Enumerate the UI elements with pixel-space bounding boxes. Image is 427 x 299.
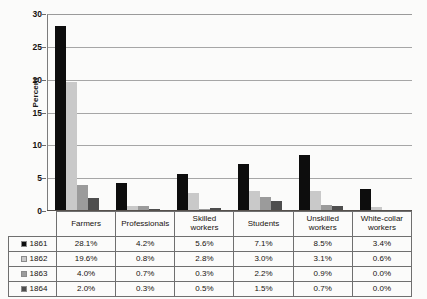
- table-cell-1861-2: 5.6%: [175, 237, 234, 252]
- y-tick-mark: [42, 145, 46, 146]
- bar-1862-2: [188, 193, 199, 211]
- table-cell-1862-2: 2.8%: [175, 252, 234, 267]
- table-cell-1861-4: 8.5%: [293, 237, 352, 252]
- y-tick-30: 30: [18, 9, 42, 19]
- bar-1861-0: [55, 26, 66, 211]
- table-cell-1864-1: 0.3%: [116, 282, 175, 297]
- data-table-wrap: FarmersProfessionalsSkilledworkersStuden…: [8, 211, 412, 297]
- bar-group-farmers: [47, 14, 108, 211]
- bar-chart-plot: Percent 051015202530: [0, 0, 427, 222]
- table-cell-1864-5: 0.0%: [352, 282, 411, 297]
- bar-1861-2: [177, 174, 188, 211]
- legend-swatch-icon: [21, 241, 27, 247]
- legend-label: 1861: [30, 239, 48, 248]
- table-cell-1862-5: 0.6%: [352, 252, 411, 267]
- bar-1861-5: [360, 189, 371, 211]
- bar-1862-4: [310, 191, 321, 211]
- table-cell-1863-1: 0.7%: [116, 267, 175, 282]
- legend-label: 1862: [30, 254, 48, 263]
- y-axis-tick-labels: 051015202530: [18, 14, 42, 211]
- y-tick-15: 15: [18, 108, 42, 118]
- table-row: 18642.0%0.3%0.5%1.5%0.7%0.0%: [9, 282, 412, 297]
- y-tick-mark: [42, 80, 46, 81]
- table-cell-1863-3: 2.2%: [234, 267, 293, 282]
- bar-group-skilled-workers: [169, 14, 230, 211]
- legend-label: 1864: [30, 284, 48, 293]
- table-col-header-3: Students: [234, 212, 293, 237]
- table-row: 186128.1%4.2%5.6%7.1%8.5%3.4%: [9, 237, 412, 252]
- table-cell-1863-4: 0.9%: [293, 267, 352, 282]
- table-row: 18634.0%0.7%0.3%2.2%0.9%0.0%: [9, 267, 412, 282]
- table-cell-1861-5: 3.4%: [352, 237, 411, 252]
- data-table: FarmersProfessionalsSkilledworkersStuden…: [8, 211, 412, 297]
- y-tick-mark: [42, 47, 46, 48]
- bar-group-unskilled-workers: [290, 14, 351, 211]
- table-body: 186128.1%4.2%5.6%7.1%8.5%3.4%186219.6%0.…: [9, 237, 412, 297]
- table-cell-1864-3: 1.5%: [234, 282, 293, 297]
- table-cell-1861-0: 28.1%: [57, 237, 116, 252]
- table-header-row: FarmersProfessionalsSkilledworkersStuden…: [9, 212, 412, 237]
- bar-group-students: [229, 14, 290, 211]
- y-tick-10: 10: [18, 140, 42, 150]
- table-col-header-4: Unskilledworkers: [293, 212, 352, 237]
- table-corner-cell: [9, 212, 57, 237]
- y-tick-5: 5: [18, 173, 42, 183]
- y-tick-mark: [42, 178, 46, 179]
- bar-1862-3: [249, 191, 260, 211]
- bar-1861-3: [238, 164, 249, 211]
- bar-1863-0: [77, 185, 88, 211]
- y-tick-mark: [42, 14, 46, 15]
- table-cell-1864-0: 2.0%: [57, 282, 116, 297]
- table-cell-1863-5: 0.0%: [352, 267, 411, 282]
- bar-group-professionals: [108, 14, 169, 211]
- legend-item-1864: 1864: [9, 282, 57, 297]
- table-cell-1862-4: 3.1%: [293, 252, 352, 267]
- legend-label: 1863: [30, 269, 48, 278]
- table-col-header-1: Professionals: [116, 212, 175, 237]
- table-cell-1862-3: 3.0%: [234, 252, 293, 267]
- chart-figure: Percent 051015202530 FarmersProfessional…: [0, 0, 427, 299]
- table-col-header-0: Farmers: [57, 212, 116, 237]
- table-cell-1864-4: 0.7%: [293, 282, 352, 297]
- legend-item-1861: 1861: [9, 237, 57, 252]
- legend-swatch-icon: [21, 286, 27, 292]
- bar-1861-1: [116, 183, 127, 211]
- bar-1861-4: [299, 155, 310, 211]
- table-cell-1862-1: 0.8%: [116, 252, 175, 267]
- bar-groups: [47, 14, 412, 211]
- table-cell-1861-3: 7.1%: [234, 237, 293, 252]
- table-cell-1863-0: 4.0%: [57, 267, 116, 282]
- legend-swatch-icon: [21, 256, 27, 262]
- y-tick-20: 20: [18, 75, 42, 85]
- y-tick-mark: [42, 113, 46, 114]
- table-col-header-2: Skilledworkers: [175, 212, 234, 237]
- y-tick-25: 25: [18, 42, 42, 52]
- table-row: 186219.6%0.8%2.8%3.0%3.1%0.6%: [9, 252, 412, 267]
- legend-item-1862: 1862: [9, 252, 57, 267]
- bar-1862-0: [66, 82, 77, 211]
- table-cell-1862-0: 19.6%: [57, 252, 116, 267]
- bar-group-white-collar-workers: [351, 14, 412, 211]
- table-col-header-5: White-collarworkers: [352, 212, 411, 237]
- table-cell-1864-2: 0.5%: [175, 282, 234, 297]
- legend-item-1863: 1863: [9, 267, 57, 282]
- table-cell-1863-2: 0.3%: [175, 267, 234, 282]
- table-cell-1861-1: 4.2%: [116, 237, 175, 252]
- bar-1863-3: [260, 197, 271, 211]
- legend-swatch-icon: [21, 271, 27, 277]
